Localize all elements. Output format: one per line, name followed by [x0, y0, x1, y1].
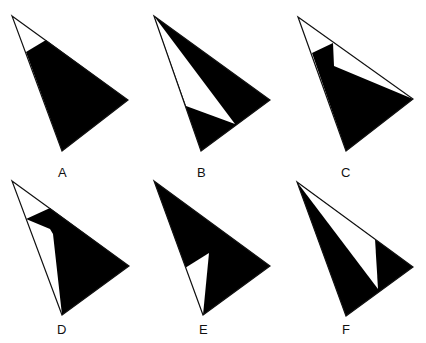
option-c[interactable]: C [298, 17, 413, 180]
option-label: E [199, 322, 208, 337]
option-label: C [341, 165, 350, 180]
shaded-region [154, 181, 270, 315]
option-label: F [342, 322, 350, 337]
option-b[interactable]: B [154, 16, 270, 180]
option-e[interactable]: E [154, 181, 270, 337]
option-f[interactable]: F [297, 182, 413, 337]
option-label: A [58, 165, 67, 180]
option-a[interactable]: A [12, 16, 128, 180]
option-d[interactable]: D [12, 181, 129, 337]
option-label: B [197, 165, 206, 180]
shaded-region [154, 16, 270, 151]
triangle-options-diagram: A B C D E F [0, 0, 426, 343]
option-label: D [57, 322, 66, 337]
